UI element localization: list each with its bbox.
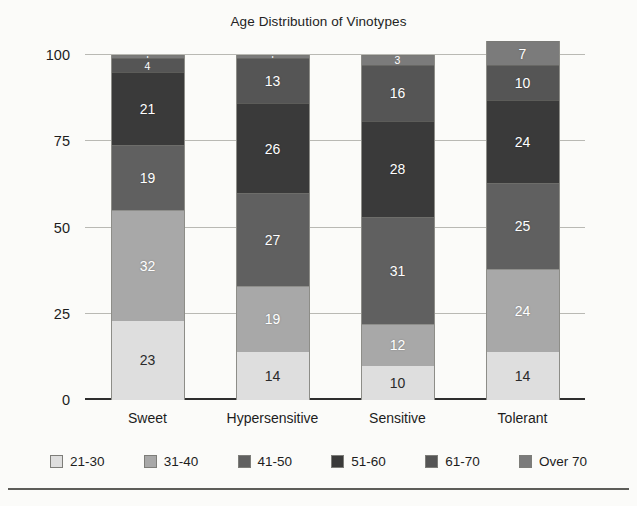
bar-stack: 2332192141 (111, 55, 185, 400)
bar-stack: 14242524107 (486, 41, 560, 400)
legend-swatch-icon (238, 455, 251, 468)
bar-segment[interactable]: 24 (487, 269, 559, 352)
legend-item-61-70[interactable]: 61-70 (425, 454, 480, 469)
bar-group-hypersensitive[interactable]: 14192726131 (236, 55, 310, 400)
x-axis-tick-label-tolerant: Tolerant (448, 410, 598, 426)
legend-label: 41-50 (258, 454, 293, 469)
bar-value-label: 32 (140, 259, 156, 273)
legend-label: 31-40 (164, 454, 199, 469)
legend-item-21-30[interactable]: 21-30 (50, 454, 105, 469)
bar-segment[interactable]: 10 (362, 366, 434, 401)
bar-value-label: 24 (515, 304, 531, 318)
bar-group-sensitive[interactable]: 10123128163 (361, 55, 435, 400)
bar-segment[interactable]: 1 (112, 55, 184, 58)
bar-segment[interactable]: 19 (112, 145, 184, 211)
bar-segment[interactable]: 4 (112, 58, 184, 72)
bar-segment[interactable]: 13 (237, 58, 309, 103)
bar-value-label: 7 (519, 47, 527, 61)
bar-segment[interactable]: 12 (362, 324, 434, 365)
bar-value-label: 24 (515, 135, 531, 149)
bar-value-label: 14 (515, 369, 531, 383)
legend-swatch-icon (50, 455, 63, 468)
bar-stack: 10123128163 (361, 55, 435, 400)
page-title: Age Distribution of Vinotypes (0, 14, 637, 29)
bar-value-label: 10 (515, 76, 531, 90)
legend-swatch-icon (144, 455, 157, 468)
bar-value-label: 13 (265, 74, 281, 88)
y-axis-tick-label: 25 (22, 306, 70, 322)
bar-value-label: 3 (395, 55, 401, 65)
bar-segment[interactable]: 16 (362, 65, 434, 120)
y-axis-tick-label: 100 (22, 47, 70, 63)
bar-value-label: 28 (390, 162, 406, 176)
bar-segment[interactable]: 7 (487, 41, 559, 65)
bar-value-label: 19 (140, 171, 156, 185)
bar-value-label: 4 (145, 61, 151, 72)
bar-value-label: 23 (140, 353, 156, 367)
bottom-divider (8, 488, 629, 490)
bar-value-label: 31 (390, 264, 406, 278)
y-axis-tick-label: 50 (22, 220, 70, 236)
bar-segment[interactable]: 32 (112, 210, 184, 320)
bar-value-label: 16 (390, 86, 406, 100)
bar-group-tolerant[interactable]: 14242524107 (486, 55, 560, 400)
x-axis-labels: SweetHypersensitiveSensitiveTolerant (85, 410, 585, 432)
legend-item-31-40[interactable]: 31-40 (144, 454, 199, 469)
bar-segment[interactable]: 27 (237, 193, 309, 286)
bar-segment[interactable]: 25 (487, 183, 559, 269)
bar-segment[interactable]: 24 (487, 100, 559, 183)
legend-label: 61-70 (445, 454, 480, 469)
bar-segment[interactable]: 1 (237, 55, 309, 58)
legend-label: 21-30 (70, 454, 105, 469)
bar-value-label: 27 (265, 233, 281, 247)
bar-value-label: 25 (515, 219, 531, 233)
bar-value-label: 21 (140, 102, 156, 116)
legend-swatch-icon (331, 455, 344, 468)
legend-item-51-60[interactable]: 51-60 (331, 454, 386, 469)
bar-value-label: 14 (265, 369, 281, 383)
bar-segment[interactable]: 28 (362, 121, 434, 218)
chart-page: Age Distribution of Vinotypes 2332192141… (0, 0, 637, 506)
bar-value-label: 26 (265, 142, 281, 156)
bar-segment[interactable]: 21 (112, 72, 184, 144)
y-axis-tick-label: 0 (22, 392, 70, 408)
bar-value-label: 1 (145, 55, 151, 58)
bar-segment[interactable]: 10 (487, 65, 559, 100)
bar-segment[interactable]: 19 (237, 286, 309, 352)
bar-segment[interactable]: 23 (112, 321, 184, 400)
bar-stack: 14192726131 (236, 55, 310, 400)
bar-segment[interactable]: 26 (237, 103, 309, 193)
bar-segment[interactable]: 14 (237, 352, 309, 400)
bar-value-label: 12 (390, 338, 406, 352)
chart-legend: 21-3031-4041-5051-6061-70Over 70 (28, 446, 609, 476)
legend-label: 51-60 (351, 454, 386, 469)
legend-label: Over 70 (539, 454, 587, 469)
bar-segment[interactable]: 3 (362, 55, 434, 65)
bar-segment[interactable]: 31 (362, 217, 434, 324)
legend-swatch-icon (519, 455, 532, 468)
bar-value-label: 10 (390, 376, 406, 390)
bar-segment[interactable]: 14 (487, 352, 559, 400)
legend-item-over-70[interactable]: Over 70 (519, 454, 587, 469)
plot-area: 2332192141141927261311012312816314242524… (85, 55, 585, 400)
bar-value-label: 1 (270, 55, 276, 58)
y-axis-tick-label: 75 (22, 133, 70, 149)
bar-value-label: 19 (265, 312, 281, 326)
legend-item-41-50[interactable]: 41-50 (238, 454, 293, 469)
bar-group-sweet[interactable]: 2332192141 (111, 55, 185, 400)
legend-swatch-icon (425, 455, 438, 468)
